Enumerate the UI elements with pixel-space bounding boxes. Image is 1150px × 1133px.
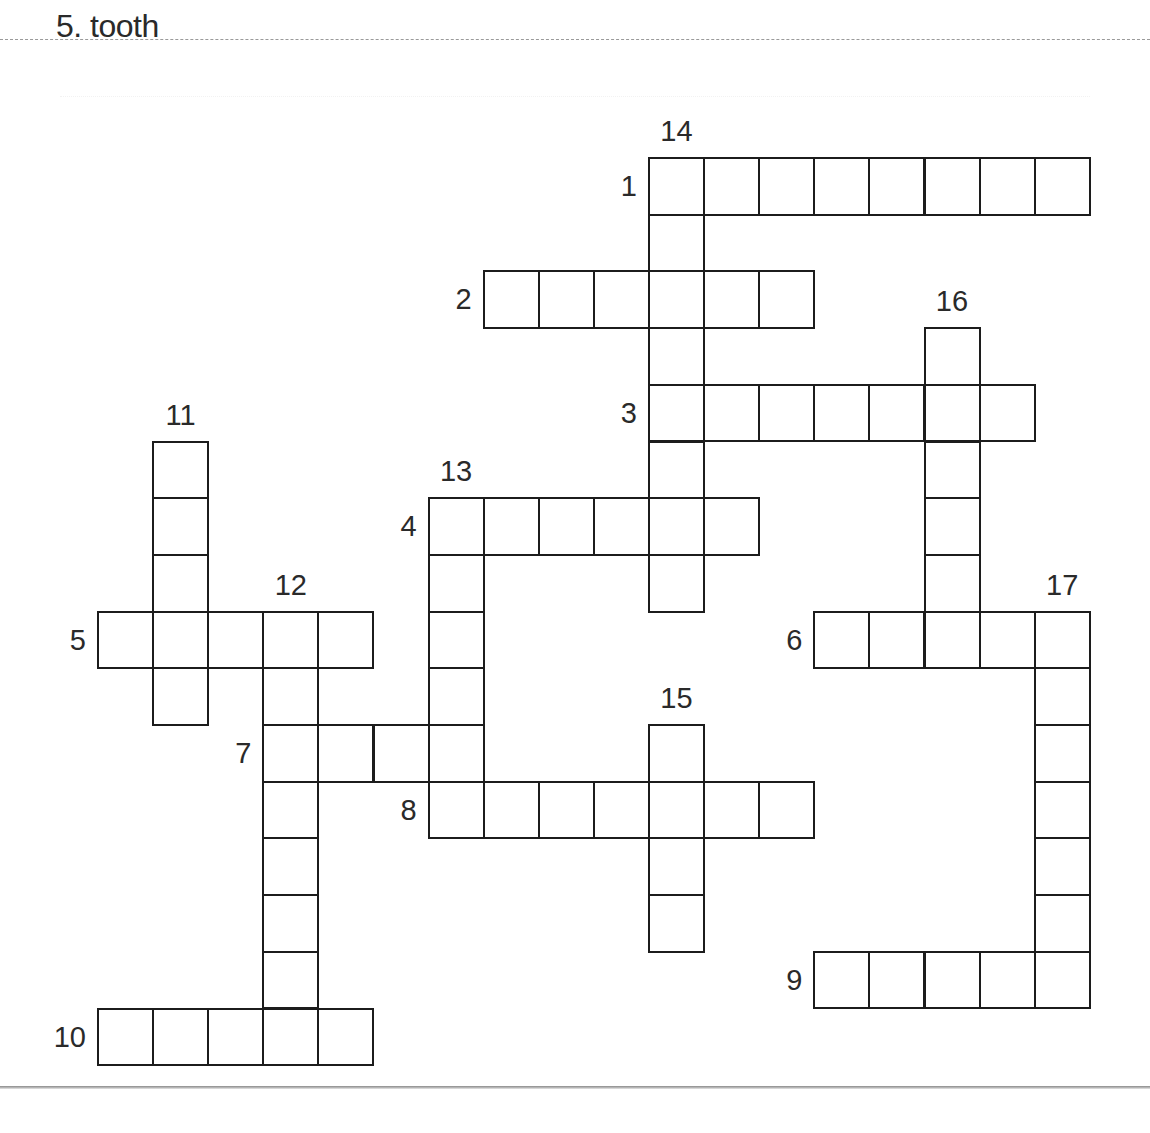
crossword-cell[interactable] bbox=[1034, 667, 1091, 726]
crossword-cell[interactable] bbox=[262, 611, 319, 670]
crossword-cell[interactable] bbox=[648, 894, 705, 953]
crossword-cell[interactable] bbox=[648, 781, 705, 840]
crossword-cell[interactable] bbox=[317, 611, 374, 670]
crossword-cell[interactable] bbox=[483, 781, 540, 840]
crossword-cell[interactable] bbox=[262, 951, 319, 1010]
crossword-cell[interactable] bbox=[648, 441, 705, 500]
crossword-cell[interactable] bbox=[483, 497, 540, 556]
clue-number-10: 10 bbox=[46, 1022, 86, 1052]
crossword-cell[interactable] bbox=[152, 1008, 209, 1067]
clue-number-6: 6 bbox=[762, 625, 802, 655]
crossword-cell[interactable] bbox=[1034, 894, 1091, 953]
crossword-cell[interactable] bbox=[373, 724, 430, 783]
crossword-cell[interactable] bbox=[758, 270, 815, 329]
crossword-cell[interactable] bbox=[924, 611, 981, 670]
crossword-cell[interactable] bbox=[924, 951, 981, 1010]
crossword-cell[interactable] bbox=[648, 214, 705, 273]
crossword-cell[interactable] bbox=[262, 781, 319, 840]
crossword-cell[interactable] bbox=[758, 157, 815, 216]
clue-number-14: 14 bbox=[649, 116, 704, 146]
crossword-cell[interactable] bbox=[924, 384, 981, 443]
crossword-cell[interactable] bbox=[152, 667, 209, 726]
crossword-cell[interactable] bbox=[868, 157, 925, 216]
crossword-cell[interactable] bbox=[538, 270, 595, 329]
clue-number-12: 12 bbox=[263, 570, 318, 600]
crossword-cell[interactable] bbox=[648, 554, 705, 613]
crossword-cell[interactable] bbox=[924, 497, 981, 556]
crossword-cell[interactable] bbox=[428, 724, 485, 783]
crossword-cell[interactable] bbox=[648, 724, 705, 783]
crossword-cell[interactable] bbox=[262, 894, 319, 953]
crossword-cell[interactable] bbox=[152, 441, 209, 500]
crossword-cell[interactable] bbox=[758, 781, 815, 840]
crossword-cell[interactable] bbox=[538, 497, 595, 556]
crossword-cell[interactable] bbox=[428, 554, 485, 613]
crossword-cell[interactable] bbox=[1034, 951, 1091, 1010]
crossword-cell[interactable] bbox=[703, 157, 760, 216]
crossword-cell[interactable] bbox=[868, 384, 925, 443]
crossword-cell[interactable] bbox=[152, 497, 209, 556]
crossword-cell[interactable] bbox=[1034, 724, 1091, 783]
crossword-cell[interactable] bbox=[317, 1008, 374, 1067]
crossword-cell[interactable] bbox=[428, 497, 485, 556]
crossword-cell[interactable] bbox=[97, 611, 154, 670]
crossword-cell[interactable] bbox=[758, 384, 815, 443]
crossword-cell[interactable] bbox=[207, 1008, 264, 1067]
crossword-cell[interactable] bbox=[538, 781, 595, 840]
crossword-cell[interactable] bbox=[593, 781, 650, 840]
crossword-cell[interactable] bbox=[262, 724, 319, 783]
clue-number-3: 3 bbox=[597, 398, 637, 428]
crossword-cell[interactable] bbox=[703, 497, 760, 556]
crossword-cell[interactable] bbox=[648, 327, 705, 386]
crossword-cell[interactable] bbox=[593, 497, 650, 556]
clue-number-2: 2 bbox=[432, 284, 472, 314]
crossword-cell[interactable] bbox=[593, 270, 650, 329]
crossword-cell[interactable] bbox=[97, 1008, 154, 1067]
crossword-cell[interactable] bbox=[428, 781, 485, 840]
crossword-cell[interactable] bbox=[1034, 157, 1091, 216]
clue-number-15: 15 bbox=[649, 683, 704, 713]
crossword-cell[interactable] bbox=[648, 384, 705, 443]
crossword-cell[interactable] bbox=[979, 611, 1036, 670]
crossword-cell[interactable] bbox=[648, 157, 705, 216]
crossword-cell[interactable] bbox=[924, 554, 981, 613]
crossword-cell[interactable] bbox=[207, 611, 264, 670]
crossword-cell[interactable] bbox=[813, 951, 870, 1010]
crossword-cell[interactable] bbox=[648, 497, 705, 556]
crossword-cell[interactable] bbox=[428, 611, 485, 670]
crossword-grid: 1234567891011121314151617 bbox=[0, 0, 1150, 1133]
crossword-cell[interactable] bbox=[813, 611, 870, 670]
crossword-cell[interactable] bbox=[979, 951, 1036, 1010]
crossword-cell[interactable] bbox=[1034, 837, 1091, 896]
crossword-cell[interactable] bbox=[428, 667, 485, 726]
crossword-cell[interactable] bbox=[924, 441, 981, 500]
crossword-cell[interactable] bbox=[152, 611, 209, 670]
crossword-cell[interactable] bbox=[648, 270, 705, 329]
crossword-cell[interactable] bbox=[703, 384, 760, 443]
crossword-cell[interactable] bbox=[979, 384, 1036, 443]
crossword-cell[interactable] bbox=[924, 327, 981, 386]
clue-number-13: 13 bbox=[429, 456, 484, 486]
crossword-cell[interactable] bbox=[262, 837, 319, 896]
crossword-cell[interactable] bbox=[317, 724, 374, 783]
clue-number-9: 9 bbox=[762, 965, 802, 995]
crossword-cell[interactable] bbox=[648, 837, 705, 896]
crossword-cell[interactable] bbox=[868, 951, 925, 1010]
clue-number-1: 1 bbox=[597, 171, 637, 201]
crossword-cell[interactable] bbox=[979, 157, 1036, 216]
crossword-cell[interactable] bbox=[1034, 781, 1091, 840]
crossword-cell[interactable] bbox=[924, 157, 981, 216]
crossword-cell[interactable] bbox=[262, 667, 319, 726]
crossword-cell[interactable] bbox=[1034, 611, 1091, 670]
clue-number-16: 16 bbox=[925, 286, 980, 316]
crossword-cell[interactable] bbox=[813, 384, 870, 443]
crossword-cell[interactable] bbox=[813, 157, 870, 216]
clue-number-4: 4 bbox=[377, 511, 417, 541]
crossword-cell[interactable] bbox=[483, 270, 540, 329]
crossword-cell[interactable] bbox=[152, 554, 209, 613]
crossword-cell[interactable] bbox=[703, 270, 760, 329]
crossword-cell[interactable] bbox=[868, 611, 925, 670]
crossword-cell[interactable] bbox=[703, 781, 760, 840]
crossword-cell[interactable] bbox=[262, 1008, 319, 1067]
clue-number-17: 17 bbox=[1035, 570, 1090, 600]
